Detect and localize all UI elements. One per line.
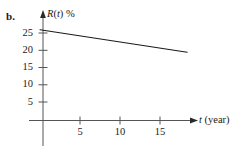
x-axis-title-unit: (year) [205,114,230,125]
x-axis-title: t (year) [199,114,230,125]
y-tick-label-25: 25 [15,27,33,38]
x-tick-label-10: 10 [111,126,129,137]
y-axis-title-unit: % [66,8,75,19]
x-axis-arrow-icon [190,118,198,124]
series-path [40,30,187,52]
y-tick-label-5: 5 [15,96,33,107]
y-axis-title-paren-close: ) [60,8,64,19]
y-tick-label-10: 10 [15,78,33,89]
x-axis-title-variable: t [199,114,202,125]
series-line-R [40,30,187,52]
x-axis [29,118,198,124]
y-tick-label-20: 20 [15,44,33,55]
x-tick-label-5: 5 [71,126,89,137]
figure-panel-b: b. R(t) % [0,0,236,154]
x-tick-label-15: 15 [151,126,169,137]
y-tick-label-15: 15 [15,61,33,72]
y-axis-arrow-icon [40,10,46,18]
y-axis-title: R(t) % [47,8,75,19]
